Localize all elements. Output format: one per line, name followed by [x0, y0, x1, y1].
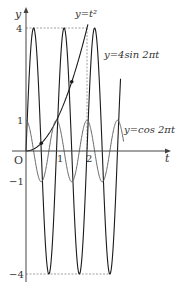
x-tick-2: 2: [86, 153, 92, 164]
cosine-label: y=cos 2πt: [123, 124, 176, 135]
y-tick-minus4: −4: [9, 269, 24, 280]
curves: [26, 24, 124, 274]
y-axis-arrow-icon: [24, 7, 29, 13]
parabola-label: y=t²: [74, 8, 97, 19]
y-axis-label: y: [14, 8, 22, 21]
origin-label: O: [14, 154, 23, 167]
function-graph: y t O 1 2 4 1 −1 −4 y=t² y=4sin 2πt y=co…: [0, 0, 179, 289]
y-tick-minus1: −1: [9, 176, 24, 187]
y-tick-4: 4: [16, 23, 22, 34]
intersection-point-1: [39, 142, 43, 146]
x-axis-label: t: [165, 152, 170, 165]
marked-points: [39, 80, 73, 145]
y-tick-1: 1: [17, 115, 23, 126]
intersection-point-2: [70, 80, 74, 84]
sine-label: y=4sin 2πt: [103, 49, 160, 60]
x-tick-1: 1: [57, 153, 63, 164]
